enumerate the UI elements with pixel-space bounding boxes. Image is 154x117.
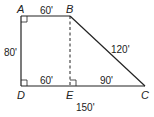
measure-de: 60' — [40, 75, 53, 86]
measure-ad: 80' — [4, 47, 17, 58]
vertex-label-a: A — [16, 3, 24, 15]
vertex-label-b: B — [66, 3, 73, 15]
right-angle-e-icon — [70, 80, 76, 86]
right-angle-a-icon — [21, 16, 27, 22]
trapezoid-diagram: A B D E C 60' 80' 120' 60' 90' 150' — [0, 0, 154, 117]
vertex-label-d: D — [17, 89, 25, 101]
right-angle-d-icon — [21, 80, 27, 86]
measure-ec: 90' — [100, 75, 113, 86]
vertex-label-c: C — [141, 89, 149, 101]
measure-bc: 120' — [111, 44, 130, 55]
vertex-label-e: E — [66, 89, 74, 101]
measure-dc: 150' — [76, 102, 95, 113]
measure-ab: 60' — [40, 5, 53, 16]
